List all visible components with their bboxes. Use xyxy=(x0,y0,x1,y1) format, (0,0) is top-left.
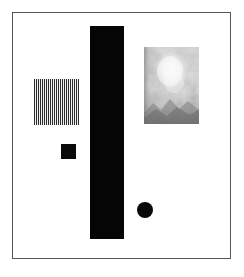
grayscale-texture-panel xyxy=(144,47,199,124)
black-vertical-bar-shape xyxy=(90,26,124,239)
artwork-canvas xyxy=(0,0,244,277)
black-circle-shape xyxy=(137,202,153,218)
striped-rectangle-shape xyxy=(34,79,79,125)
texture-svg xyxy=(144,47,199,124)
artwork-frame xyxy=(12,12,231,259)
black-small-square-shape xyxy=(61,144,76,159)
